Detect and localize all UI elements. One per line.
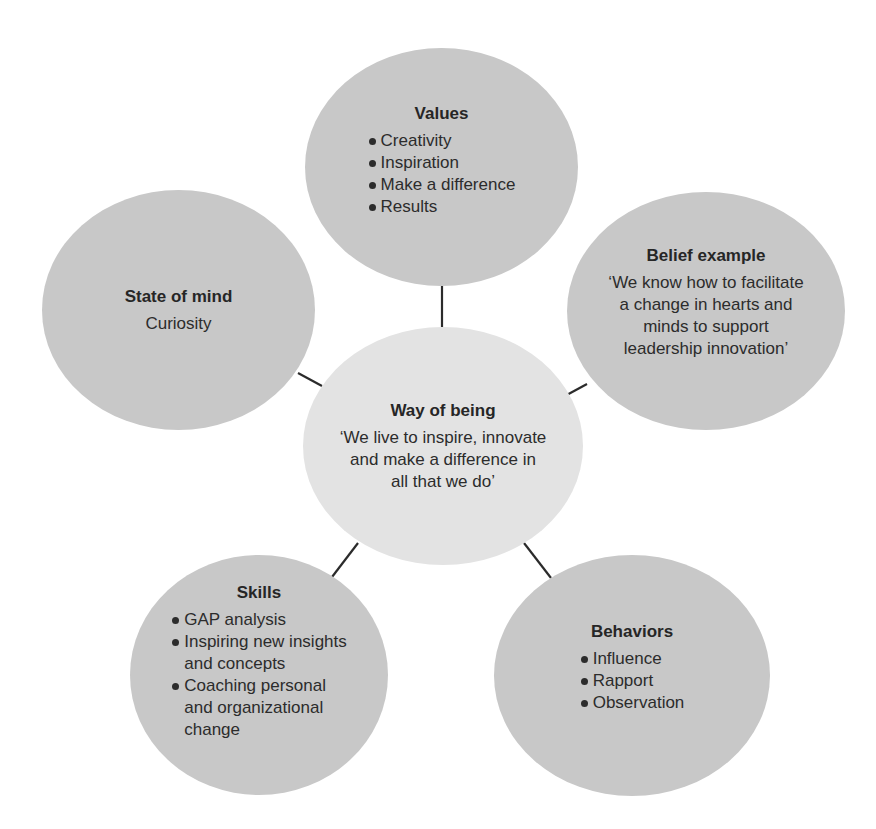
behaviors-item: Observation [580,692,685,714]
skills-item-line: change [184,719,347,741]
values-list: Creativity Inspiration Make a difference… [368,130,516,218]
skills-item-line: and concepts [184,653,347,675]
behaviors-item: Rapport [580,670,685,692]
belief-example-title: Belief example [646,245,765,267]
behaviors-title: Behaviors [591,621,673,643]
belief-example-node: Belief example ‘We know how to facilitat… [567,192,845,430]
way-of-being-line: ‘We live to inspire, innovate [340,427,547,449]
behaviors-item: Influence [580,648,685,670]
skills-item-line: GAP analysis [184,609,347,631]
skills-node: Skills GAP analysis Inspiring new insigh… [130,555,388,795]
skills-item-line: and organizational [184,697,347,719]
way-of-being-line: and make a difference in [340,449,547,471]
skills-title: Skills [237,582,281,604]
values-item: Make a difference [368,174,516,196]
way-of-being-node: Way of being ‘We live to inspire, innova… [303,327,583,565]
state-of-mind-title: State of mind [125,286,233,308]
values-item: Results [368,196,516,218]
way-of-being-text: ‘We live to inspire, innovate and make a… [340,427,547,493]
behaviors-node: Behaviors Influence Rapport Observation [494,555,770,796]
connector-state-of-mind [298,373,322,386]
values-item: Creativity [368,130,516,152]
values-item: Inspiration [368,152,516,174]
skills-item: Coaching personal and organizational cha… [171,675,347,741]
connector-behaviors [524,543,551,578]
skills-item: GAP analysis [171,609,347,631]
way-of-being-diagram: Values Creativity Inspiration Make a dif… [0,0,876,829]
values-title: Values [415,103,469,125]
skills-item-line: Inspiring new insights [184,631,347,653]
state-of-mind-text: Curiosity [145,313,211,335]
values-node: Values Creativity Inspiration Make a dif… [305,48,578,286]
belief-example-line: a change in hearts and [608,294,803,316]
belief-example-text: ‘We know how to facilitate a change in h… [608,272,803,360]
skills-list: GAP analysis Inspiring new insights and … [171,609,347,741]
way-of-being-title: Way of being [390,400,495,422]
belief-example-line: leadership innovation’ [608,338,803,360]
connector-skills [332,543,358,577]
skills-item: Inspiring new insights and concepts [171,631,347,675]
behaviors-list: Influence Rapport Observation [580,648,685,714]
belief-example-line: minds to support [608,316,803,338]
state-of-mind-node: State of mind Curiosity [42,190,315,430]
way-of-being-line: all that we do’ [340,471,547,493]
skills-item-line: Coaching personal [184,675,347,697]
belief-example-line: ‘We know how to facilitate [608,272,803,294]
